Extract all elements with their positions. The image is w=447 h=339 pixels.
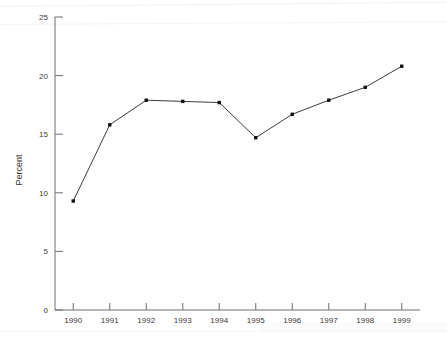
x-tick-label: 1999 — [393, 316, 411, 325]
x-axis-ticks — [73, 303, 402, 310]
series-data-point — [254, 136, 257, 139]
y-tick-label: 20 — [39, 72, 48, 81]
series-data-point — [218, 101, 221, 104]
x-tick-label: 1998 — [356, 316, 374, 325]
y-axis-ticks — [55, 17, 63, 310]
line-chart-plot: 0510152025 19901991199219931994199519961… — [0, 0, 447, 339]
x-tick-label: 1992 — [137, 316, 155, 325]
series-line-percent — [73, 66, 402, 201]
series-data-point — [145, 99, 148, 102]
x-tick-label: 1997 — [320, 316, 338, 325]
series-data-point — [108, 123, 111, 126]
y-tick-label: 5 — [44, 247, 49, 256]
y-axis-tick-labels: 0510152025 — [39, 13, 48, 315]
x-axis-tick-labels: 1990199119921993199419951996199719981999 — [64, 316, 411, 325]
x-tick-label: 1993 — [174, 316, 192, 325]
x-tick-label: 1991 — [101, 316, 119, 325]
series-data-point — [291, 113, 294, 116]
y-tick-label: 0 — [44, 306, 49, 315]
series-data-point — [364, 86, 367, 89]
series-data-point — [72, 199, 75, 202]
x-tick-label: 1995 — [247, 316, 265, 325]
y-tick-label: 10 — [39, 189, 48, 198]
y-tick-label: 25 — [39, 13, 48, 22]
x-tick-label: 1994 — [210, 316, 228, 325]
series-data-point — [181, 100, 184, 103]
y-axis-title: Percent — [14, 154, 24, 186]
x-tick-label: 1990 — [64, 316, 82, 325]
chart-figure: 0510152025 19901991199219931994199519961… — [0, 0, 447, 339]
y-tick-label: 15 — [39, 130, 48, 139]
x-tick-label: 1996 — [283, 316, 301, 325]
series-data-point — [327, 99, 330, 102]
series-markers — [72, 65, 404, 203]
series-data-point — [400, 65, 403, 68]
